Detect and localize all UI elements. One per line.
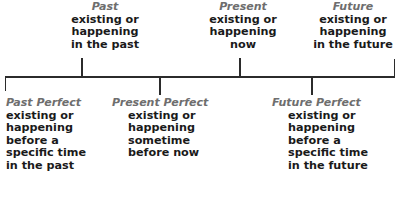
- past-description-line-3: in the past: [40, 39, 170, 52]
- future-perfect-description-line-2: happening: [288, 122, 396, 135]
- future-description: existing or happening in the future: [297, 14, 409, 52]
- present-block: Present existing or happening now: [185, 1, 301, 51]
- past-perfect-block: Past Perfect existing or happening befor…: [6, 97, 112, 173]
- past-perfect-label: Past Perfect: [6, 97, 112, 110]
- present-perfect-label: Present Perfect: [112, 97, 228, 110]
- present-description-line-3: now: [185, 39, 301, 52]
- future-perfect-description: existing or happening before a specific …: [272, 110, 396, 173]
- past-description-line-2: happening: [40, 26, 170, 39]
- future-label: Future: [297, 1, 409, 14]
- past-block: Past existing or happening in the past: [40, 1, 170, 51]
- future-perfect-block: Future Perfect existing or happening bef…: [272, 97, 396, 173]
- past-perfect-description-line-5: in the past: [6, 160, 112, 173]
- present-perfect-description-line-2: happening: [128, 122, 228, 135]
- future-description-line-2: happening: [297, 26, 409, 39]
- tense-timeline-diagram: Past existing or happening in the past P…: [0, 0, 409, 200]
- past-label: Past: [40, 1, 170, 14]
- present-description: existing or happening now: [185, 14, 301, 52]
- future-block: Future existing or happening in the futu…: [297, 1, 409, 51]
- present-description-line-2: happening: [185, 26, 301, 39]
- past-description: existing or happening in the past: [40, 14, 170, 52]
- past-perfect-description-line-2: happening: [6, 122, 112, 135]
- future-description-line-3: in the future: [297, 39, 409, 52]
- present-perfect-description: existing or happening sometime before no…: [112, 110, 228, 160]
- present-label: Present: [185, 1, 301, 14]
- present-perfect-block: Present Perfect existing or happening so…: [112, 97, 228, 160]
- future-perfect-label: Future Perfect: [272, 97, 396, 110]
- present-perfect-description-line-4: before now: [128, 147, 228, 160]
- future-perfect-description-line-5: in the future: [288, 160, 396, 173]
- past-perfect-description: existing or happening before a specific …: [6, 110, 112, 173]
